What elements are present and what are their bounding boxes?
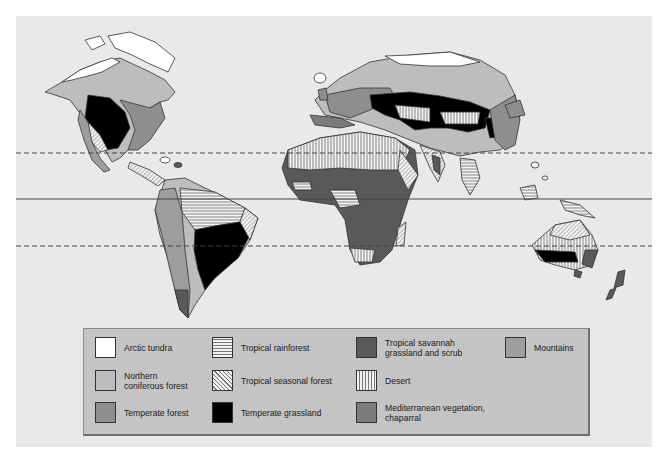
legend-item-arctic-tundra: Arctic tundra xyxy=(95,337,172,358)
legend-label: Tropical seasonal forest xyxy=(241,376,332,386)
legend-item-desert: Desert xyxy=(356,370,410,391)
legend-label: Tropical savannah grassland and scrub xyxy=(385,338,462,358)
legend-item-mediterranean: Mediterranean vegetation, chaparral xyxy=(356,402,485,423)
legend-item-temperate-grassland: Temperate grassland xyxy=(212,402,321,423)
southeast-asia-islands xyxy=(520,162,595,218)
legend-label: Northern coniferous forest xyxy=(124,371,188,391)
legend-item-mountains: Mountains xyxy=(505,337,574,358)
legend-label: Temperate grassland xyxy=(241,408,321,418)
desert-swatch xyxy=(356,370,377,391)
temperate-grassland-swatch xyxy=(212,402,233,423)
legend-label: Tropical rainforest xyxy=(241,343,309,353)
legend-label: Arctic tundra xyxy=(124,343,172,353)
arctic-tundra-swatch xyxy=(95,337,116,358)
tropical-savannah-swatch xyxy=(356,337,377,358)
north-america xyxy=(45,32,175,172)
legend-item-temperate-forest: Temperate forest xyxy=(95,402,188,423)
tropical-rainforest-swatch xyxy=(212,337,233,358)
legend-label: Mountains xyxy=(534,343,574,353)
legend-label: Temperate forest xyxy=(124,408,188,418)
map-legend: Arctic tundra Northern coniferous forest… xyxy=(83,328,590,436)
australia xyxy=(532,220,625,300)
mountains-swatch xyxy=(505,337,526,358)
mediterranean-swatch xyxy=(356,402,377,423)
legend-item-tropical-savannah: Tropical savannah grassland and scrub xyxy=(356,337,462,358)
tropical-seasonal-forest-swatch xyxy=(212,370,233,391)
legend-item-northern-coniferous-forest: Northern coniferous forest xyxy=(95,370,188,391)
temperate-forest-swatch xyxy=(95,402,116,423)
legend-label: Desert xyxy=(385,376,410,386)
legend-item-tropical-rainforest: Tropical rainforest xyxy=(212,337,309,358)
legend-label: Mediterranean vegetation, chaparral xyxy=(385,403,485,423)
legend-item-tropical-seasonal-forest: Tropical seasonal forest xyxy=(212,370,332,391)
northern-coniferous-forest-swatch xyxy=(95,370,116,391)
